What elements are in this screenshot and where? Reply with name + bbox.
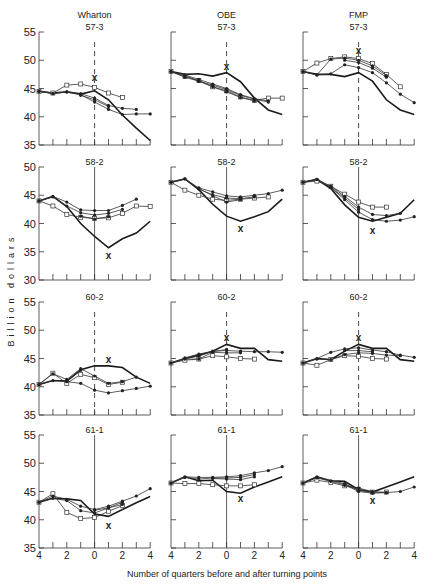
dot-marker-icon [197,352,200,355]
model-title: OBE [217,10,236,20]
x-tick-label: 4 [147,550,153,561]
y-tick-label: 45 [24,83,36,95]
dot-marker-icon [371,490,374,493]
dot-marker-icon [93,509,96,512]
dot-marker-icon [135,108,138,111]
x-axis-label: Number of quarters before and after turn… [127,569,328,579]
dot-marker-icon [93,98,96,101]
dot-marker-icon [93,389,96,392]
dot-marker-icon [93,209,96,212]
square-marker-icon [384,205,388,209]
square-marker-icon [93,85,97,89]
dot-marker-icon [315,73,318,76]
dot-marker-icon [315,476,318,479]
dot-marker-icon [37,383,40,386]
dot-marker-icon [239,96,242,99]
dot-marker-icon [357,211,360,214]
dot-marker-icon [225,200,228,203]
dot-marker-icon [169,481,172,484]
turning-point-label: 58-2 [218,157,236,167]
dot-marker-icon [149,487,152,490]
y-tick-label: 50 [24,161,36,173]
dot-marker-icon [239,198,242,201]
dot-marker-icon [281,465,284,468]
dot-marker-icon [93,511,96,514]
dot-marker-icon [329,480,332,483]
y-tick-label: 35 [24,542,36,554]
dot-marker-icon [225,90,228,93]
y-tick-label: 50 [24,457,36,469]
dot-marker-icon [253,475,256,478]
y-tick-label: 50 [24,54,36,66]
dot-marker-icon [135,376,138,379]
dot-marker-icon [267,192,270,195]
dot-marker-icon [301,361,304,364]
dot-marker-icon [329,72,332,75]
model-title: FMP [349,10,368,20]
square-marker-icon [120,96,124,100]
dot-marker-icon [385,354,388,357]
panel-wharton-58-2: 58-23035404550x [24,157,152,286]
panel-fmp-58-2: 58-2x [301,157,416,280]
square-marker-icon [134,204,138,208]
dot-marker-icon [239,478,242,481]
dot-marker-icon [121,204,124,207]
square-marker-icon [183,482,187,486]
dot-marker-icon [267,350,270,353]
dot-marker-icon [413,215,416,218]
x-tick-label: 4 [168,550,174,561]
turning-point-label: 57-3 [218,22,236,32]
dot-marker-icon [107,215,110,218]
dot-marker-icon [399,490,402,493]
dot-marker-icon [107,212,110,215]
dot-marker-icon [413,101,416,104]
dot-marker-icon [239,93,242,96]
turning-point-x-marker: x [370,225,376,236]
dot-marker-icon [107,506,110,509]
square-marker-icon [65,212,69,216]
x-tick-label: 0 [92,550,98,561]
dot-marker-icon [135,112,138,115]
x-tick-label: 2 [120,550,126,561]
square-marker-icon [266,195,270,199]
square-marker-icon [211,197,215,201]
panel-obe-57-3: OBE57-3x [169,10,284,145]
dot-marker-icon [399,219,402,222]
dot-marker-icon [385,214,388,217]
dot-marker-icon [329,58,332,61]
y-tick-label: 40 [24,111,36,123]
dot-marker-icon [225,196,228,199]
dot-marker-icon [121,208,124,211]
square-marker-icon [197,193,201,197]
dot-marker-icon [135,387,138,390]
y-tick-label: 55 [24,26,36,38]
x-tick-label: 4 [300,550,306,561]
panel-wharton-61-1: 61-1354045505542024x [24,425,154,561]
turning-point-label: 58-2 [350,157,368,167]
x-tick-label: 2 [196,550,202,561]
x-tick-label: 2 [384,550,390,561]
panel-fmp-57-3: FMP57-3x [301,10,416,145]
square-marker-icon [65,83,69,87]
chart-grid: Wharton57-33540455055xOBE57-3xFMP57-3x58… [0,0,434,586]
dot-marker-icon [281,189,284,192]
dot-marker-icon [371,218,374,221]
dot-marker-icon [253,195,256,198]
x-tick-label: 4 [411,550,417,561]
y-tick-label: 40 [24,381,36,393]
dot-marker-icon [385,350,388,353]
dot-marker-icon [329,358,332,361]
dot-marker-icon [225,87,228,90]
dot-marker-icon [413,485,416,488]
x-tick-label: 2 [64,550,70,561]
square-marker-icon [79,517,83,521]
panel-fmp-61-1: 61-142024x [300,425,417,561]
square-marker-icon [79,82,83,86]
turning-point-label: 60-2 [86,292,104,302]
dot-marker-icon [357,61,360,64]
dot-marker-icon [183,476,186,479]
dot-marker-icon [385,76,388,79]
dot-marker-icon [107,391,110,394]
square-marker-icon [51,204,55,208]
turning-point-x-marker: x [106,520,112,531]
